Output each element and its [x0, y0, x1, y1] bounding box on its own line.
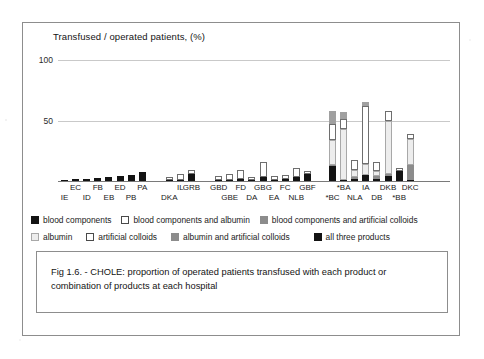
legend-label: artificial colloids	[98, 232, 157, 242]
bar-GBG	[260, 23, 267, 181]
legend-item-blood-components-and-artificial-colloids: blood components and artificial colloids	[260, 215, 418, 225]
bar-DB	[373, 23, 380, 181]
bar-IA	[362, 23, 369, 181]
bar-EC	[72, 23, 79, 181]
bar-segment-albumin	[329, 140, 336, 164]
x-label-IE: IE	[54, 193, 76, 202]
legend-label: blood components and artificial colloids	[272, 215, 418, 225]
bar-NLB	[293, 23, 300, 181]
y-axis-tick-50: 50	[29, 116, 53, 126]
bar-segment-blood-components	[166, 180, 173, 181]
bar-segment-blood-components	[72, 179, 79, 181]
bar-segment-blood-components	[304, 174, 311, 181]
legend-swatch-solid-gray-icon	[171, 233, 179, 241]
x-label-DKA: DKA	[158, 193, 180, 202]
x-label-DKC: DKC	[399, 183, 421, 192]
bar-segment-blood-components	[329, 166, 336, 181]
legend-swatch-outline-white-icon	[86, 233, 94, 241]
y-axis-tick-100: 100	[29, 55, 53, 65]
bar-segment-albumin-and-artificial-colloids	[329, 111, 336, 123]
x-label-EB: EB	[98, 193, 120, 202]
bar-segment-albumin	[340, 129, 347, 180]
legend-label: albumin and artificial colloids	[183, 232, 290, 242]
bar-GRB	[188, 23, 195, 181]
bar-segment-albumin	[385, 121, 392, 174]
x-label-starBB: *BB	[388, 193, 410, 202]
x-label-DB: DB	[366, 193, 388, 202]
bar-segment-blood-components	[215, 180, 222, 181]
x-label-PB: PB	[120, 193, 142, 202]
bar-segment-blood-components-and-artificial-colloids	[407, 165, 414, 180]
bar-segment-artificial-colloids	[373, 162, 380, 171]
legend-item-blood-components-and-albumin: blood components and albumin	[121, 215, 249, 225]
bar-group	[58, 23, 450, 181]
bar-segment-artificial-colloids	[260, 162, 267, 178]
bar-segment-artificial-colloids	[385, 111, 392, 121]
bar-segment-blood-components	[260, 177, 267, 181]
bar-segment-blood-components	[293, 177, 300, 181]
x-label-GBE: GBE	[219, 193, 241, 202]
chart-plot-area: Transfused / operated patients, (%) 100 …	[23, 23, 461, 209]
x-label-DA: DA	[241, 193, 263, 202]
x-label-starBC: *BC	[322, 193, 344, 202]
x-label-FD: FD	[230, 183, 252, 192]
bar-segment-blood-components	[248, 180, 255, 181]
bar-segment-blood-components	[351, 179, 358, 181]
x-label-GBG: GBG	[252, 183, 274, 192]
x-axis-baseline	[58, 181, 450, 182]
bar-segment-albumin	[407, 139, 414, 166]
legend-item-artificial-colloids: artificial colloids	[86, 232, 157, 242]
chart-legend: blood componentsblood components and alb…	[23, 211, 461, 245]
bar-segment-blood-components	[226, 180, 233, 181]
x-label-GRB: GRB	[181, 183, 203, 192]
bar-starBA	[340, 23, 347, 181]
x-label-DKB: DKB	[377, 183, 399, 192]
legend-item-all-three-products: all three products	[314, 232, 390, 242]
legend-swatch-light-gray-icon	[31, 233, 39, 241]
x-label-starBA: *BA	[333, 183, 355, 192]
bar-ID	[83, 23, 90, 181]
legend-label: blood components and albumin	[133, 215, 249, 225]
bar-DKA	[166, 23, 173, 181]
bar-segment-blood-components	[177, 180, 184, 181]
bar-IE	[61, 23, 68, 181]
bar-segment-blood-components	[396, 171, 403, 181]
bar-segment-blood-components	[128, 175, 135, 181]
bar-segment-blood-components	[61, 180, 68, 181]
x-label-NLB: NLB	[285, 193, 307, 202]
legend-row-2: albuminartificial colloidsalbumin and ar…	[23, 228, 461, 245]
figure-frame: Transfused / operated patients, (%) 100 …	[22, 22, 460, 336]
bar-segment-blood-components	[362, 175, 369, 181]
bar-EA	[271, 23, 278, 181]
bar-PB	[128, 23, 135, 181]
x-label-EA: EA	[263, 193, 285, 202]
x-label-ID: ID	[76, 193, 98, 202]
x-label-EC: EC	[65, 183, 87, 192]
bar-segment-artificial-colloids	[293, 168, 300, 177]
legend-swatch-solid-gray-icon	[260, 216, 268, 224]
legend-item-albumin-and-artificial-colloids: albumin and artificial colloids	[171, 232, 290, 242]
bar-segment-blood-components	[340, 180, 347, 181]
bar-segment-blood-components	[237, 179, 244, 181]
x-label-FC: FC	[274, 183, 296, 192]
legend-swatch-solid-black-icon	[314, 233, 322, 241]
bar-segment-artificial-colloids	[340, 119, 347, 129]
bar-NLA	[351, 23, 358, 181]
bar-DKB	[385, 23, 392, 181]
bar-segment-blood-components	[139, 172, 146, 181]
bar-segment-albumin-and-artificial-colloids	[340, 112, 347, 119]
bar-PA	[139, 23, 146, 181]
bar-FD	[237, 23, 244, 181]
legend-label: blood components	[43, 215, 111, 225]
bar-segment-artificial-colloids	[362, 106, 369, 164]
x-axis-labels: IEECIDFBEBEDPBPADKAILGRBGBDGBEFDDAGBGEAF…	[58, 183, 450, 209]
x-label-GBF: GBF	[296, 183, 318, 192]
bar-segment-artificial-colloids	[237, 170, 244, 178]
bar-starBC	[329, 23, 336, 181]
bar-segment-blood-components	[105, 177, 112, 181]
legend-label: albumin	[43, 232, 72, 242]
bar-GBE	[226, 23, 233, 181]
x-label-FB: FB	[87, 183, 109, 192]
bar-segment-blood-components	[117, 176, 124, 181]
legend-row-1: blood componentsblood components and alb…	[23, 211, 461, 228]
